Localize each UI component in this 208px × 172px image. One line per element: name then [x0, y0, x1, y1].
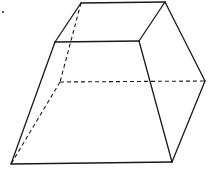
- marks: [2, 11, 4, 13]
- edge-top_front_left-top_back_left: [55, 3, 81, 42]
- edge-bottom_front_left-bottom_front_right: [11, 162, 172, 164]
- edge-top_front_left-bottom_front_left: [11, 42, 55, 164]
- edge-bottom_front_right-bottom_back_right: [172, 81, 205, 162]
- edge-top_back_right-bottom_back_right: [165, 2, 205, 81]
- hidden-edge-bottom_back_left-bottom_back_right: [60, 81, 205, 82]
- edge-top_back_left-top_back_right: [81, 2, 165, 3]
- visible-edges: [11, 2, 205, 164]
- dot-mark: [2, 11, 4, 13]
- edge-top_front_right-bottom_front_right: [139, 41, 172, 162]
- edge-top_front_right-top_front_left: [55, 41, 139, 42]
- frustum-diagram: [0, 0, 208, 172]
- edge-top_back_right-top_front_right: [139, 2, 165, 41]
